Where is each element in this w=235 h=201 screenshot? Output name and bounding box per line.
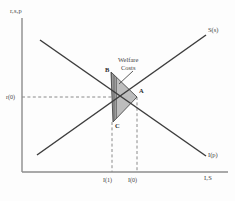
- x-axis-title: I,S: [204, 175, 212, 182]
- point-label-c: C: [115, 123, 120, 130]
- plot-canvas: [0, 0, 235, 201]
- point-label-b: B: [105, 67, 109, 74]
- welfare-cost-diagram: r,s,p I,S S(s) I(p) Welfare Costs B A C …: [0, 0, 235, 201]
- welfare-costs-leader-line: [119, 71, 133, 84]
- y-axis-title: r,s,p: [10, 8, 22, 15]
- x-tick-label-i0: I(0): [128, 177, 137, 183]
- supply-curve-label: S(s): [208, 27, 218, 34]
- demand-curve-label: I(p): [208, 152, 218, 159]
- welfare-costs-line-2: Costs: [118, 64, 138, 72]
- y-tick-label-r0: r(0): [6, 94, 15, 100]
- point-label-a: A: [139, 88, 144, 95]
- x-tick-label-i1: I(1): [103, 177, 112, 183]
- welfare-costs-line-1: Welfare: [118, 56, 138, 64]
- supply-curve: [37, 35, 206, 155]
- welfare-costs-annotation: Welfare Costs: [118, 56, 138, 71]
